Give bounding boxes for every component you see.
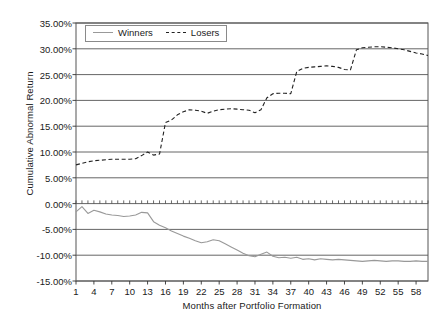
chart-legend: Winners Losers — [85, 25, 227, 42]
legend-label-losers: Losers — [191, 28, 220, 38]
series-line-winners — [76, 207, 428, 262]
plot-area — [0, 0, 445, 320]
legend-swatch-winners-icon — [93, 32, 113, 33]
series-line-losers — [76, 47, 428, 165]
legend-label-winners: Winners — [118, 28, 153, 38]
legend-swatch-losers-icon — [166, 32, 186, 33]
legend-item-winners: Winners — [93, 28, 153, 38]
legend-item-losers: Losers — [166, 28, 220, 38]
chart-figure: Cumulative Abnormal Return Months after … — [0, 0, 445, 320]
